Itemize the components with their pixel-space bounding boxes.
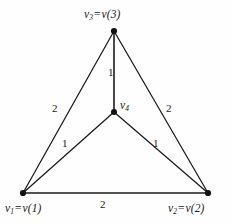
graph-figure: v3=v(3) v1=v(1) v2=v(2) v4 1 2 2 1 1 2 <box>0 0 233 223</box>
vertex-label-v2: v2=v(2) <box>168 203 204 216</box>
edge-v1-v3 <box>23 31 114 193</box>
vertex-label-v2-eq: = <box>177 202 186 214</box>
vertex-v1 <box>20 190 26 196</box>
vertex-label-v1: v1=v(1) <box>5 203 41 216</box>
edge-weight-v2-v3: 2 <box>166 103 172 114</box>
vertex-label-v4: v4 <box>120 100 129 113</box>
vertex-label-v3-fn: v(3) <box>102 8 121 20</box>
vertex-label-v4-sub: 4 <box>125 104 129 113</box>
edge-v2-v4 <box>114 112 208 193</box>
edge-weight-v1-v2: 2 <box>100 199 106 210</box>
edge-weight-v3-v4: 1 <box>108 67 114 78</box>
graph-canvas <box>0 0 233 223</box>
vertex-label-v1-eq: = <box>14 202 23 214</box>
vertex-v3 <box>111 28 117 34</box>
vertex-v4 <box>111 109 117 115</box>
edge-weight-v1-v3: 2 <box>52 103 58 114</box>
edge-weight-v2-v4: 1 <box>153 138 159 149</box>
vertex-label-v2-fn: v(2) <box>186 202 205 214</box>
vertex-v2 <box>205 190 211 196</box>
vertex-label-v3: v3=v(3) <box>84 9 120 22</box>
edge-weight-v1-v4: 1 <box>62 138 68 149</box>
vertex-label-v1-fn: v(1) <box>23 202 42 214</box>
vertex-label-v3-eq: = <box>93 8 102 20</box>
edge-v1-v4 <box>23 112 114 193</box>
